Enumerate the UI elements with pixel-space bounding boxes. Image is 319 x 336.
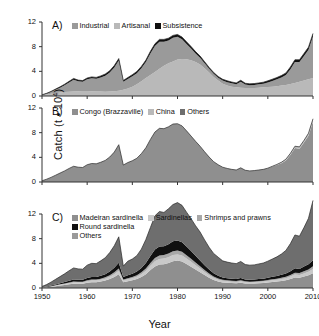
legend-label: Others	[187, 107, 209, 116]
x-tick-label: 2000	[254, 292, 282, 301]
legend-item[interactable]: Industrial	[72, 21, 109, 30]
x-tick-label: 1960	[73, 292, 101, 301]
chart-svg	[0, 0, 319, 336]
legend-swatch-icon	[155, 23, 161, 29]
legend-item[interactable]: Congo (Brazzaville)	[72, 107, 143, 116]
y-tick-label: 4	[16, 258, 36, 267]
legend-swatch-icon	[114, 23, 120, 29]
y-tick-label: 12	[16, 103, 36, 112]
legend-item[interactable]: Sardinellas	[148, 213, 192, 222]
legend-item[interactable]: China	[148, 107, 175, 116]
y-tick-label: 0	[16, 177, 36, 186]
y-tick-label: 0	[16, 283, 36, 292]
legend-item[interactable]: Madeiran sardinella	[72, 213, 143, 222]
y-tick-label: 8	[16, 42, 36, 51]
legend-swatch-icon	[72, 224, 78, 230]
x-tick-label: 2010	[299, 292, 319, 301]
panel-letter-A: A)	[52, 19, 63, 31]
legend-swatch-icon	[180, 109, 186, 115]
x-tick-label: 1950	[28, 292, 56, 301]
legend-item[interactable]: Round sardinella	[72, 222, 134, 231]
x-tick-label: 1970	[118, 292, 146, 301]
figure-container: Catch (t • 104) Year 04812A)IndustrialAr…	[0, 0, 319, 336]
legend-swatch-icon	[197, 215, 203, 221]
y-tick-label: 12	[16, 209, 36, 218]
legend-swatch-icon	[72, 23, 78, 29]
y-tick-label: 0	[16, 91, 36, 100]
y-axis-label: Catch (t • 104)	[52, 64, 65, 184]
legend-item[interactable]: Artisanal	[114, 21, 150, 30]
legend-label: Subsistence	[163, 21, 203, 30]
legend-label: Sardinellas	[156, 213, 192, 222]
legend-swatch-icon	[72, 109, 78, 115]
y-tick-label: 12	[16, 17, 36, 26]
y-tick-label: 8	[16, 234, 36, 243]
legend-swatch-icon	[72, 233, 78, 239]
panel-letter-C: C)	[52, 211, 63, 223]
x-tick-label: 1990	[209, 292, 237, 301]
legend-item[interactable]: Others	[180, 107, 209, 116]
legend-label: Madeiran sardinella	[80, 213, 144, 222]
x-axis-label: Year	[0, 318, 319, 330]
x-tick-label: 1980	[164, 292, 192, 301]
y-tick-label: 8	[16, 128, 36, 137]
legend-label: Shrimps and prawns	[204, 213, 271, 222]
legend-label: Industrial	[80, 21, 110, 30]
y-tick-label: 4	[16, 66, 36, 75]
legend-swatch-icon	[72, 215, 78, 221]
legend-label: Others	[80, 231, 102, 240]
legend-label: Congo (Brazzaville)	[80, 107, 144, 116]
legend-swatch-icon	[148, 109, 154, 115]
legend-item[interactable]: Shrimps and prawns	[197, 213, 271, 222]
legend-label: Artisanal	[122, 21, 150, 30]
legend-swatch-icon	[148, 215, 154, 221]
legend-item[interactable]: Others	[72, 231, 101, 240]
y-tick-label: 4	[16, 152, 36, 161]
panel-letter-B: B)	[52, 105, 63, 117]
legend-item[interactable]: Subsistence	[155, 21, 202, 30]
area-band-congo-brazzaville-	[42, 122, 313, 182]
legend-panel-C: Madeiran sardinellaSardinellasShrimps an…	[72, 213, 276, 240]
legend-panel-A: IndustrialArtisanalSubsistence	[72, 21, 207, 30]
legend-label: Round sardinella	[80, 222, 135, 231]
legend-panel-B: Congo (Brazzaville)ChinaOthers	[72, 107, 214, 116]
legend-label: China	[156, 107, 175, 116]
